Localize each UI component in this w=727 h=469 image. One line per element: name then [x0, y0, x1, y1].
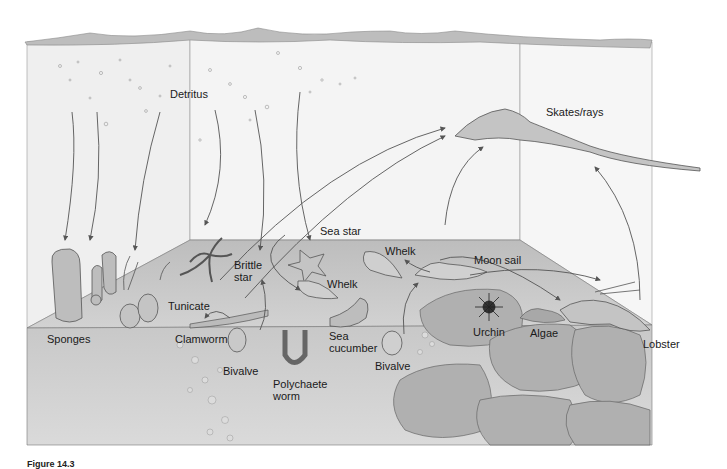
bivalve-left	[228, 328, 246, 352]
label-sea-cucumber: Sea cucumber	[329, 330, 377, 354]
label-skates-rays: Skates/rays	[546, 106, 603, 118]
label-brittle-star: Brittle star	[234, 259, 262, 283]
label-sea-star: Sea star	[320, 225, 361, 237]
label-bivalve-right: Bivalve	[375, 360, 410, 372]
label-algae: Algae	[530, 327, 558, 339]
label-bivalve-left: Bivalve	[223, 365, 258, 377]
figure-caption: Figure 14.3	[27, 459, 75, 469]
label-lobster: Lobster	[643, 338, 680, 350]
label-urchin: Urchin	[473, 326, 505, 338]
bivalve-right	[382, 331, 402, 355]
label-sponges: Sponges	[47, 333, 90, 345]
label-clamworm: Clamworm	[175, 333, 228, 345]
label-polychaete-worm: Polychaete worm	[273, 378, 327, 402]
label-whelk-upper: Whelk	[385, 245, 416, 257]
label-detritus: Detritus	[170, 88, 208, 100]
label-moon-snail: Moon sail	[474, 254, 521, 266]
label-whelk-lower: Whelk	[327, 278, 358, 290]
urchin	[475, 293, 503, 321]
label-tunicate: Tunicate	[168, 300, 210, 312]
